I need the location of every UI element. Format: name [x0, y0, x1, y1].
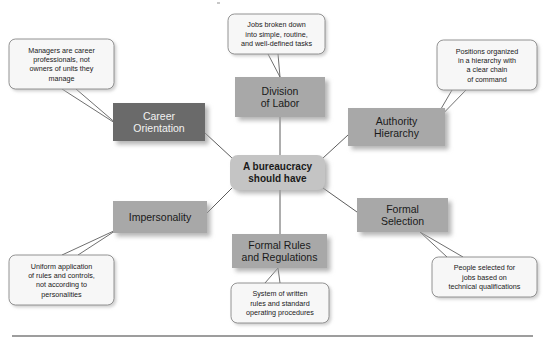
node-center[interactable]: A bureaucracyshould have: [230, 155, 325, 190]
scan-artifact-speck: [217, 2, 220, 4]
center-node-label: A bureaucracyshould have: [243, 161, 313, 184]
node-division-of-labor-label: Divisionof Labor: [261, 85, 300, 110]
node-formal-rules-and-regulations[interactable]: Formal Rulesand Regulations: [232, 234, 327, 268]
connector-center-authority-hierarchy: [323, 135, 348, 158]
callout-impersonality[interactable]: Uniform applicationof rules and controls…: [9, 255, 114, 305]
node-authority-hierarchy-label: AuthorityHierarchy: [374, 115, 420, 140]
node-impersonality-label: Impersonality: [129, 211, 192, 223]
connector-center-career-orientation: [205, 133, 232, 158]
callout-division-of-labor[interactable]: Jobs broken downinto simple, routine,and…: [228, 14, 325, 54]
node-formal-rules-and-regulations-label: Formal Rulesand Regulations: [242, 239, 318, 263]
callout-authority-hierarchy[interactable]: Positions organizedin a hierarchy witha …: [437, 40, 537, 90]
concept-map-diagram: Divisionof LaborCareerOrientationAuthori…: [0, 0, 545, 345]
center-node-layer: A bureaucracyshould have: [230, 155, 325, 190]
node-division-of-labor[interactable]: Divisionof Labor: [235, 77, 325, 117]
callout-impersonality-tail: [62, 229, 118, 255]
callout-formal-selection[interactable]: People selected forjobs based ontechnica…: [432, 257, 537, 297]
connector-center-impersonality: [207, 188, 232, 213]
callout-formal-rules-and-regulations[interactable]: System of writtenrules and standardopera…: [231, 283, 329, 323]
node-authority-hierarchy[interactable]: AuthorityHierarchy: [348, 108, 445, 146]
callout-formal-rules-and-regulations-text: System of writtenrules and standardopera…: [246, 289, 314, 317]
callout-formal-selection-tail: [420, 232, 463, 257]
node-formal-selection[interactable]: FormalSelection: [357, 198, 448, 232]
callout-division-of-labor-tail: [268, 54, 280, 77]
diagram-canvas: Divisionof LaborCareerOrientationAuthori…: [0, 0, 545, 345]
callout-formal-rules-and-regulations-tail: [265, 268, 280, 283]
connector-center-formal-selection: [323, 188, 357, 212]
callout-career-orientation-tail: [62, 89, 118, 125]
node-impersonality[interactable]: Impersonality: [113, 201, 207, 233]
node-career-orientation[interactable]: CareerOrientation: [113, 103, 205, 141]
callout-career-orientation[interactable]: Managers are careerprofessionals, notown…: [9, 39, 114, 89]
node-formal-selection-label: FormalSelection: [381, 203, 424, 228]
callout-division-of-labor-text: Jobs broken downinto simple, routine,and…: [241, 20, 313, 48]
